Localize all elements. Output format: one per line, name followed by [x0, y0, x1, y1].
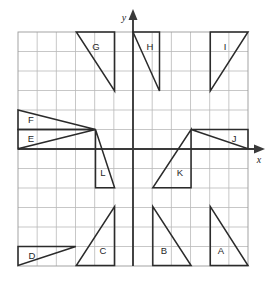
triangle-label-f: F — [28, 114, 34, 125]
x-axis-arrowhead — [254, 145, 265, 154]
triangle-d — [18, 247, 76, 266]
triangle-label-k: K — [177, 167, 184, 178]
triangle-label-e: E — [28, 133, 34, 144]
y-axis-arrowhead — [129, 9, 138, 20]
triangle-j — [191, 130, 248, 149]
triangle-label-b: B — [161, 245, 167, 256]
triangle-label-g: G — [92, 41, 99, 52]
triangle-l — [96, 130, 115, 188]
triangle-label-l: L — [100, 167, 105, 178]
triangle-c — [76, 207, 114, 266]
triangle-k — [153, 130, 191, 188]
triangle-label-c: C — [100, 245, 107, 256]
y-axis-label: y — [121, 12, 127, 23]
x-axis-label: x — [256, 154, 262, 165]
coordinate-grid-figure: x y ABCDEFGHIJKL — [0, 0, 276, 287]
triangle-label-d: D — [29, 250, 36, 261]
triangle-b — [153, 207, 191, 266]
triangle-label-i: I — [224, 41, 227, 52]
triangle-label-a: A — [218, 245, 225, 256]
triangle-label-h: H — [147, 41, 154, 52]
triangle-label-j: J — [232, 133, 237, 144]
figure-svg: x y ABCDEFGHIJKL — [0, 0, 276, 287]
